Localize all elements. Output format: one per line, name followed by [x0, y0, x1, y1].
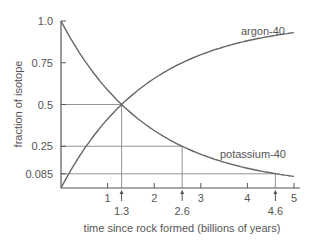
x-ticks: 12345 — [105, 183, 298, 204]
y-tick-label: 0.5 — [38, 99, 53, 111]
x-marker-label: 2.6 — [175, 205, 190, 217]
x-tick-label: 1 — [105, 192, 111, 204]
y-axis-label: fraction of isotope — [12, 61, 24, 148]
x-tick-label: 3 — [198, 192, 204, 204]
arrow-head-icon — [273, 190, 277, 194]
x-tick-label: 5 — [291, 192, 297, 204]
series-label-potassium: potassium-40 — [220, 148, 286, 160]
reference-lines — [61, 105, 275, 189]
y-tick-label: 0.75 — [32, 57, 53, 69]
x-marker-label: 1.3 — [114, 205, 129, 217]
isotope-decay-chart: 1.00.750.50.250.085 12345 1.32.64.6 argo… — [0, 0, 313, 240]
arrow-head-icon — [120, 190, 124, 194]
x-tick-label: 4 — [244, 192, 250, 204]
y-tick-label: 1.0 — [38, 15, 53, 27]
y-tick-label: 0.25 — [32, 140, 53, 152]
series-argon-40 — [61, 33, 294, 188]
arrow-head-icon — [180, 190, 184, 194]
y-tick-label: 0.085 — [25, 168, 53, 180]
series-label-argon: argon-40 — [241, 25, 285, 37]
x-tick-label: 2 — [151, 192, 157, 204]
x-axis-label: time since rock formed (billions of year… — [84, 222, 281, 234]
y-ticks: 1.00.750.50.250.085 — [25, 15, 66, 180]
x-marker-label: 4.6 — [268, 205, 283, 217]
